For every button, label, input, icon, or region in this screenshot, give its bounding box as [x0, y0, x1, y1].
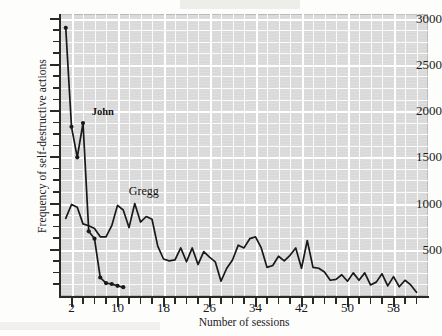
y-axis-tick — [50, 249, 60, 251]
data-point-marker — [75, 155, 79, 159]
y-axis-tick — [50, 156, 60, 158]
y-axis-tick-label: 1500 — [396, 149, 442, 165]
data-point-marker — [110, 282, 114, 286]
y-axis-tick — [50, 18, 60, 20]
x-axis-tick-label: 26 — [190, 300, 230, 316]
data-point-marker — [121, 285, 125, 289]
y-axis-tick — [53, 168, 60, 170]
data-point-marker — [81, 121, 85, 125]
y-axis-tick-label: 500 — [396, 242, 442, 258]
series-line-john — [66, 28, 124, 287]
x-axis-tick-label: 58 — [374, 300, 414, 316]
y-axis-tick — [53, 52, 60, 54]
y-axis-tick — [53, 237, 60, 239]
y-axis-tick-label: 2000 — [396, 103, 442, 119]
y-axis-tick — [53, 283, 60, 285]
data-point-marker — [69, 125, 73, 129]
chart-figure: Frequency of self-destructive actions Nu… — [0, 0, 442, 336]
data-point-marker — [98, 275, 102, 279]
series-lines — [0, 0, 442, 336]
y-axis-tick — [53, 29, 60, 31]
series-line-gregg — [66, 204, 417, 293]
x-axis-tick-label: 10 — [98, 300, 138, 316]
y-axis-tick — [53, 260, 60, 262]
data-point-marker — [92, 237, 96, 241]
x-axis-tick — [140, 297, 142, 304]
x-axis-tick — [186, 297, 188, 304]
x-axis-tick — [94, 297, 96, 304]
y-axis-tick — [53, 191, 60, 193]
y-axis-tick — [53, 179, 60, 181]
data-point-marker — [87, 229, 91, 233]
x-axis-tick — [416, 297, 418, 304]
y-axis-tick-label: 2500 — [396, 57, 442, 73]
y-axis-tick — [53, 133, 60, 135]
x-axis-tick — [324, 297, 326, 304]
y-axis-tick — [53, 214, 60, 216]
data-point-marker — [64, 26, 68, 30]
annotation-gregg: Gregg — [129, 184, 159, 199]
y-axis-tick — [53, 99, 60, 101]
data-point-marker — [115, 284, 119, 288]
y-axis-tick — [53, 272, 60, 274]
x-axis-tick — [278, 297, 280, 304]
y-axis-tick — [50, 203, 60, 205]
y-axis-tick — [53, 75, 60, 77]
y-axis-tick — [50, 110, 60, 112]
data-point-marker — [104, 281, 108, 285]
y-axis-tick-label: 3000 — [396, 11, 442, 27]
x-axis-tick-label: 42 — [282, 300, 322, 316]
y-axis-tick — [53, 145, 60, 147]
y-axis-tick — [53, 122, 60, 124]
x-axis-tick — [370, 297, 372, 304]
x-axis-tick-label: 2 — [52, 300, 92, 316]
x-axis-tick-label: 18 — [144, 300, 184, 316]
x-axis-title: Number of sessions — [60, 316, 428, 328]
y-axis-tick — [53, 41, 60, 43]
y-axis-tick — [53, 226, 60, 228]
x-axis-tick — [232, 297, 234, 304]
y-axis-title: Frequency of self-destructive actions — [36, 6, 48, 286]
y-axis-tick — [53, 87, 60, 89]
x-axis-tick-label: 34 — [236, 300, 276, 316]
y-axis-tick-label: 1000 — [396, 196, 442, 212]
y-axis-tick — [50, 64, 60, 66]
annotation-john: John — [92, 106, 114, 117]
x-axis-tick-label: 50 — [328, 300, 368, 316]
